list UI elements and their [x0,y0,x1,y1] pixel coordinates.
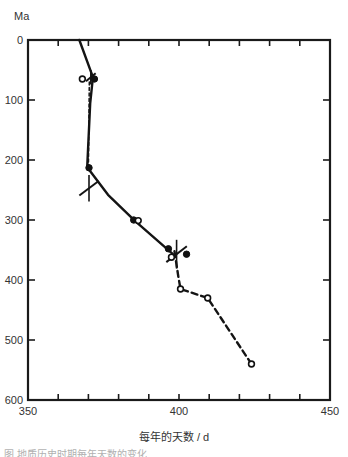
svg-text:300: 300 [5,214,23,226]
chart-tick-marks [28,40,330,400]
chart-data-points [79,76,254,367]
svg-text:200: 200 [5,154,23,166]
figure-caption: 图 地质历史时期每年天数的变化 [0,446,348,457]
chart-plot-area: 0100200300400500600350400450 [0,0,348,420]
chart-series-lines [79,40,251,364]
svg-text:0: 0 [17,34,23,46]
svg-text:100: 100 [5,94,23,106]
svg-text:400: 400 [170,405,188,417]
svg-text:400: 400 [5,274,23,286]
svg-text:500: 500 [5,334,23,346]
svg-text:350: 350 [19,405,37,417]
y-axis-unit-label: Ma [14,10,30,22]
svg-text:450: 450 [321,405,339,417]
chart-axes [28,40,330,400]
x-axis-label: 每年的天数 / d [0,428,348,444]
chart-tick-labels: 0100200300400500600350400450 [5,34,340,417]
figure-container: Ma 0100200300400500600350400450 每年的天数 / … [0,0,348,457]
chart-error-bars [79,70,187,269]
